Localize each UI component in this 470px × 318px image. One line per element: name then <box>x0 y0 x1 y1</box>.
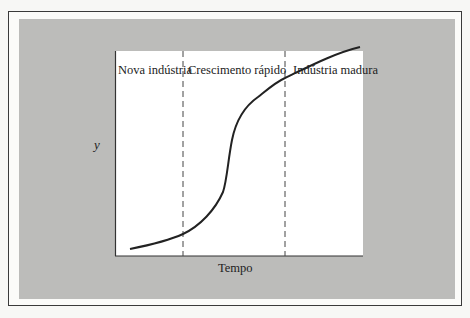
phase-label-industria-madura: Indústria madura <box>293 63 378 78</box>
phase-label-nova-industria: Nova indústria <box>118 63 192 78</box>
phase-label-crescimento-rapido: Crescimento rápido <box>188 63 286 78</box>
x-axis-label: Tempo <box>218 261 253 276</box>
plot-background <box>115 51 363 256</box>
y-axis-label: y <box>94 137 100 153</box>
